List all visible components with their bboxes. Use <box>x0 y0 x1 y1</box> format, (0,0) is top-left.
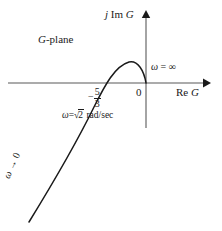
crossover-units: rad/sec <box>86 110 113 120</box>
plane-label: G-plane <box>38 34 73 45</box>
origin-label: 0 <box>136 87 142 98</box>
real-axis-label-g: G <box>191 86 199 98</box>
omega-infinity-symbol: ω <box>151 61 158 72</box>
crossover-frequency-label: ω=√2 rad/sec <box>62 111 113 121</box>
imaginary-axis-label-im: Im <box>111 8 123 20</box>
plane-label-suffix: -plane <box>46 33 73 45</box>
nyquist-plot-figure: j Im G Re G G-plane ω = ∞ 0 −53 ω=√2 rad… <box>0 0 222 231</box>
gain-crossing-numerator: 5 <box>94 87 101 99</box>
imaginary-axis-label-g: G <box>126 8 134 20</box>
real-axis-label-re: Re <box>176 86 188 98</box>
imaginary-axis-label: j Im G <box>105 9 134 20</box>
omega-infinity-label: ω = ∞ <box>151 62 176 72</box>
gain-crossing-denominator: 3 <box>94 99 101 110</box>
up-arrow-icon <box>142 10 150 18</box>
omega-infinity-value: ∞ <box>169 61 176 72</box>
gain-crossing-fraction: 53 <box>94 87 101 109</box>
right-arrow-icon <box>203 79 211 88</box>
real-axis-label: Re G <box>176 87 199 98</box>
plane-label-g: G <box>38 33 46 45</box>
nyquist-curve <box>29 62 146 222</box>
gain-crossing-label: −53 <box>88 87 101 109</box>
crossover-omega-symbol: ω <box>62 110 69 120</box>
